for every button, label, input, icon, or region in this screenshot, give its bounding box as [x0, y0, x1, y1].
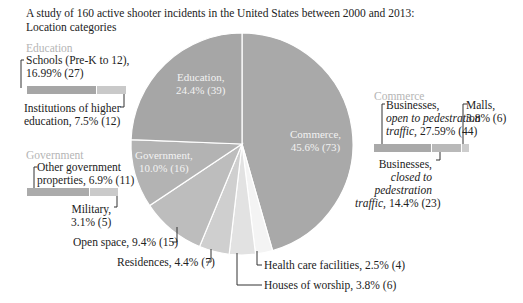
- callout-houses-of-worship: Houses of worship, 3.8% (6): [264, 279, 396, 292]
- bar-military: [90, 188, 118, 196]
- education-group-title: Education: [26, 42, 73, 54]
- leader-open-businesses: [382, 104, 385, 148]
- pie-label-education: Education, 24.4% (39): [176, 71, 226, 97]
- label-schools: Schools (Pre-K to 12), 16.99% (27): [26, 54, 130, 80]
- pie-label-government: Government, 10.0% (16): [135, 149, 193, 175]
- bar-open-businesses: [374, 144, 431, 152]
- leader-closed-businesses: [436, 152, 440, 160]
- bar-malls: [462, 144, 469, 152]
- leader-houses-of-worship: [237, 253, 262, 285]
- label-military: Military, 3.1% (5): [71, 203, 111, 229]
- pie-label-commerce: Commerce, 45.6% (73): [290, 128, 341, 154]
- label-closed-businesses: Businesses, closed to pedestration traff…: [355, 158, 432, 210]
- label-higher-ed: Institutions of higher education, 7.5% (…: [24, 102, 120, 128]
- label-other-gov: Other government properties, 6.9% (11): [37, 161, 134, 187]
- label-malls: Malls, 3.8% (6): [466, 99, 506, 125]
- leader-schools: [21, 60, 24, 88]
- bar-schools: [27, 86, 96, 94]
- government-group-title: Government: [26, 149, 83, 161]
- bar-closed-businesses: [432, 144, 461, 152]
- callout-residences: Residences, 4.4% (7): [117, 256, 215, 269]
- callout-health-care: Health care facilities, 2.5% (4): [264, 259, 405, 272]
- callout-open-space: Open space, 9.4% (15): [73, 236, 178, 249]
- bar-higher-ed: [97, 86, 126, 94]
- bar-other-gov: [27, 188, 89, 196]
